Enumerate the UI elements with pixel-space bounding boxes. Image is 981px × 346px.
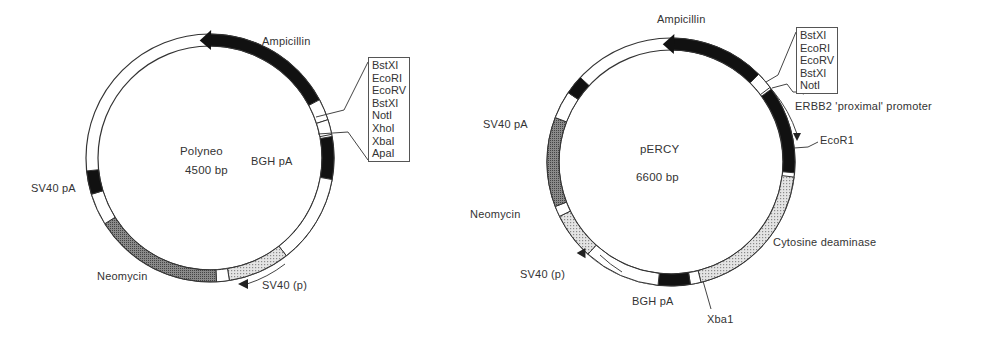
polyneo-name: Polyneo [180, 145, 223, 157]
sv40p-arrow-icon [238, 279, 248, 289]
erbb2-arrow-icon [793, 133, 801, 141]
segment-spacer [91, 191, 115, 224]
percy-ecor1-label: EcoR1 [820, 134, 854, 146]
site: BstXI [800, 29, 834, 42]
percy-sv40pa-label: SV40 pA [483, 118, 528, 130]
segment-cytosine-deaminase [698, 176, 794, 283]
segment-spacer [588, 245, 659, 285]
polyneo-bgh-label: BGH pA [251, 155, 293, 167]
polyneo-sv40pa-label: SV40 pA [31, 182, 76, 194]
percy-sv40p-label: SV40 (p) [520, 268, 565, 280]
site: EcoRI [372, 72, 406, 85]
site: EcoRV [800, 54, 834, 67]
segment-spacer [279, 177, 332, 255]
segment-sv40-pa [87, 170, 103, 195]
site: BstXI [372, 97, 406, 110]
segment-ampicillin [673, 38, 759, 83]
site: ApaI [372, 147, 406, 160]
site: BstXI [800, 67, 834, 80]
site: EcoRV [372, 84, 406, 97]
percy-cd-label: Cytosine deaminase [773, 236, 876, 248]
polyneo-sv40p-label: SV40 (p) [262, 279, 307, 291]
site: XhoI [372, 122, 406, 135]
percy-map [547, 34, 795, 286]
site: BstXI [372, 59, 406, 72]
percy-restriction-sites: BstXI EcoRI EcoRV BstXI NotI [796, 27, 838, 94]
percy-ampicillin-label: Ampicillin [657, 13, 705, 25]
segment-bgh-pa [658, 273, 690, 286]
ampicillin-arrow-icon [663, 34, 675, 54]
segment-bgh-pa [320, 136, 334, 179]
ampicillin-arrow-icon [200, 30, 211, 50]
segment-neomycin [547, 118, 566, 207]
polyneo-ampicillin-label: Ampicillin [262, 35, 310, 47]
percy-name: pERCY [640, 143, 679, 155]
percy-size: 6600 bp [636, 171, 679, 183]
segment-sv40-p- [228, 246, 287, 280]
percy-bgh-label: BGH pA [632, 295, 674, 307]
site: NotI [800, 79, 834, 92]
polyneo-restriction-sites: BstXI EcoRI EcoRV BstXI NotI XhoI XbaI A… [368, 57, 410, 162]
site: XbaI [372, 135, 406, 148]
segment-sv40-p- [560, 211, 597, 254]
polyneo-neomycin-label: Neomycin [97, 270, 148, 282]
site: NotI [372, 109, 406, 122]
percy-erbb2-label: ERBB2 'proximal' promoter [795, 100, 932, 112]
percy-neomycin-label: Neomycin [470, 208, 521, 220]
percy-xba1-label: Xba1 [707, 313, 734, 325]
segment-spacer [216, 269, 230, 282]
polyneo-size: 4500 bp [185, 164, 228, 176]
site: EcoRI [800, 42, 834, 55]
